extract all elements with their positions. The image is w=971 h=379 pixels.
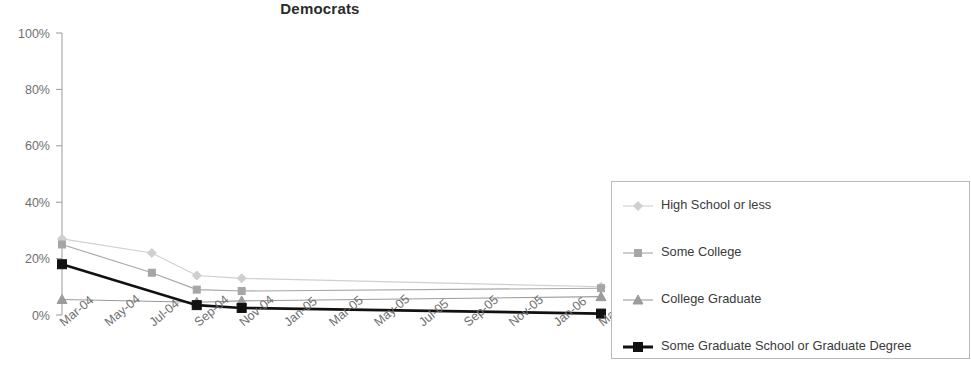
x-tick-label: Mar-05 [326, 293, 365, 329]
y-tick-label: 40% [25, 196, 50, 210]
data-point-marker [148, 269, 155, 276]
data-point-marker [192, 271, 201, 280]
data-point-marker [237, 274, 246, 283]
chart-plot-area: 0%20%40%60%80%100% Mar-04May-04Jul-04Sep… [0, 0, 971, 379]
legend-item-label: High School or less [661, 197, 771, 212]
data-point-marker [58, 260, 67, 269]
data-point-marker [147, 248, 156, 257]
x-tick-label: May-04 [102, 292, 143, 330]
legend-item-label: Some Graduate School or Graduate Degree [661, 338, 911, 353]
data-point-marker [57, 294, 67, 303]
data-point-marker [192, 301, 201, 310]
data-point-marker [59, 241, 66, 248]
y-tick-label: 80% [25, 83, 50, 97]
legend-item[interactable]: Some Graduate School or Graduate Degree [623, 338, 911, 353]
y-axis-ticks [56, 33, 62, 315]
chart-series [59, 241, 605, 295]
x-tick-label: Jul-05 [416, 297, 451, 330]
data-point-marker [238, 288, 245, 295]
chart-series [58, 234, 606, 291]
series-line [62, 239, 601, 287]
legend-item-label: College Graduate [661, 291, 761, 306]
y-tick-label: 60% [25, 139, 50, 153]
chart-figure: Democrats 0%20%40%60%80%100% Mar-04May-0… [0, 0, 971, 379]
x-tick-label: Jan-05 [282, 294, 320, 329]
y-axis-tick-labels: 0%20%40%60%80%100% [18, 27, 50, 323]
chart-legend: High School or lessSome CollegeCollege G… [612, 182, 970, 359]
data-point-marker [635, 250, 642, 257]
y-tick-label: 100% [18, 27, 50, 41]
series-line [62, 297, 601, 303]
y-tick-label: 0% [32, 309, 50, 323]
data-point-marker [193, 286, 200, 293]
y-tick-label: 20% [25, 252, 50, 266]
data-point-marker [634, 343, 643, 352]
legend-item-label: Some College [661, 244, 741, 259]
